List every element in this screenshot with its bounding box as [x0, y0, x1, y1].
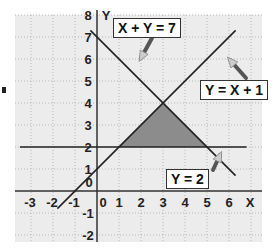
y-tick-label: 8 — [84, 8, 91, 23]
label-y-eq-2: Y = 2 — [166, 169, 209, 189]
x-tick-label: 4 — [181, 195, 189, 210]
y-tick-label: 1 — [84, 162, 91, 177]
y-tick-label: 3 — [84, 118, 91, 133]
x-tick-label: 3 — [159, 195, 166, 210]
x-axis-label: X — [246, 195, 255, 210]
y-tick-label: -2 — [82, 228, 94, 243]
y-tick-label: 7 — [84, 30, 91, 45]
x-tick-label: -3 — [24, 195, 36, 210]
x-tick-label: 1 — [115, 195, 122, 210]
edge-mark — [2, 87, 6, 93]
y-tick-label: 6 — [84, 52, 91, 67]
x-tick-label: 5 — [203, 195, 210, 210]
y-tick-label: 5 — [84, 74, 91, 89]
y-tick-label: -1 — [82, 206, 94, 221]
y-tick-label: 2 — [84, 140, 91, 155]
y-tick-label: 4 — [84, 96, 92, 111]
label-y-eq-x-plus-1: Y = X + 1 — [200, 80, 268, 100]
x-tick-label: 0 — [99, 195, 106, 210]
y-tick-label: 0 — [85, 175, 92, 190]
x-tick-label: -1 — [68, 195, 80, 210]
label-x-plus-y-eq-7: X + Y = 7 — [113, 18, 181, 38]
x-tick-label: 2 — [137, 195, 144, 210]
x-tick-label: -2 — [46, 195, 58, 210]
y-axis-label: Y — [102, 8, 111, 23]
x-tick-label: 6 — [225, 195, 232, 210]
